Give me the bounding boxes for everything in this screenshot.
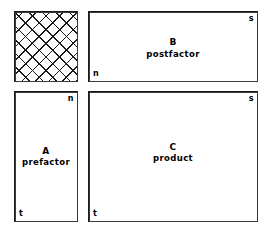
block-postfactor-label: postfactor: [89, 48, 257, 59]
block-prefactor-symbol: A: [15, 145, 77, 157]
block-product-corner-top-right: s: [249, 95, 254, 103]
block-product-label: product: [89, 153, 257, 164]
block-prefactor-corner-bottom-left: t: [19, 210, 23, 218]
block-postfactor-caption: B postfactor: [89, 37, 257, 60]
block-product: s t C product: [88, 91, 258, 222]
block-prefactor-label: prefactor: [15, 157, 77, 168]
block-postfactor-corner-bottom-left: n: [93, 70, 99, 78]
block-product-symbol: C: [89, 141, 257, 153]
block-postfactor-corner-top-right: s: [249, 15, 254, 23]
block-postfactor: s n B postfactor: [88, 11, 258, 82]
block-product-corner-bottom-left: t: [93, 210, 97, 218]
block-prefactor: n t A prefactor: [14, 91, 78, 222]
block-postfactor-symbol: B: [89, 37, 257, 49]
block-prefactor-caption: A prefactor: [15, 145, 77, 168]
block-hatched-placeholder: [14, 11, 78, 82]
matrix-multiplication-diagram: s n B postfactor n t A prefactor s t C p…: [0, 0, 274, 235]
block-prefactor-corner-top-right: n: [68, 95, 74, 103]
block-product-caption: C product: [89, 141, 257, 164]
